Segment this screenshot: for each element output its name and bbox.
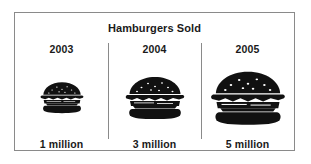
year-label-2005: 2005 [236,43,260,55]
burger-slot-2003 [15,55,108,138]
hamburger-icon-small [40,80,84,114]
value-label-2004: 3 million [133,138,177,150]
chart-column-2004: 2004 [108,41,201,151]
hamburger-icon-large [210,68,286,126]
hamburger-icon-medium [125,74,185,120]
chart-frame: Hamburgers Sold 2003 [14,12,295,151]
chart-columns: 2003 [15,41,294,151]
column-divider-1 [108,43,109,139]
value-label-2003: 1 million [40,138,84,150]
burger-slot-2005 [201,55,294,138]
chart-column-2005: 2005 [201,41,294,151]
chart-title: Hamburgers Sold [15,22,294,34]
column-divider-2 [201,43,202,139]
year-label-2003: 2003 [50,43,74,55]
burger-slot-2004 [108,55,201,138]
value-label-2005: 5 million [226,138,270,150]
chart-column-2003: 2003 [15,41,108,151]
year-label-2004: 2004 [143,43,167,55]
